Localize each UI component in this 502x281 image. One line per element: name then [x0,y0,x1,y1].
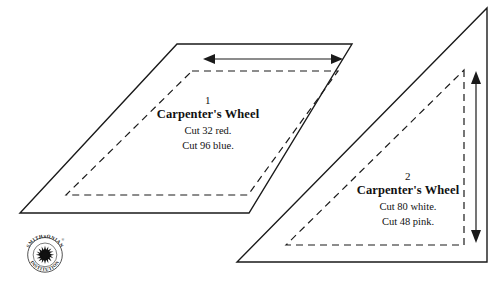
piece-1-number: 1 [108,94,308,107]
piece-2-number: 2 [318,170,498,183]
piece-2-title: Carpenter's Wheel [318,183,498,198]
piece-1-cut-line-2: Cut 96 blue. [108,140,308,152]
pattern-sheet: 1 Carpenter's Wheel Cut 32 red. Cut 96 b… [0,0,502,281]
piece-2-label: 2 Carpenter's Wheel Cut 80 white. Cut 48… [318,170,498,228]
piece-2-cut-line-1: Cut 80 white. [318,201,498,213]
piece-2-cut-line-2: Cut 48 pink. [318,216,498,228]
piece-1-label: 1 Carpenter's Wheel Cut 32 red. Cut 96 b… [108,94,308,152]
piece-1-grainline-arrow [203,54,343,64]
sunburst-icon [36,246,54,264]
smithsonian-institution-seal: SMITHSONIAN INSTITUTION ® [22,233,68,274]
piece-1-cut-line-1: Cut 32 red. [108,125,308,137]
registered-trademark-icon: ® [61,237,64,242]
piece-1-title: Carpenter's Wheel [108,107,308,122]
